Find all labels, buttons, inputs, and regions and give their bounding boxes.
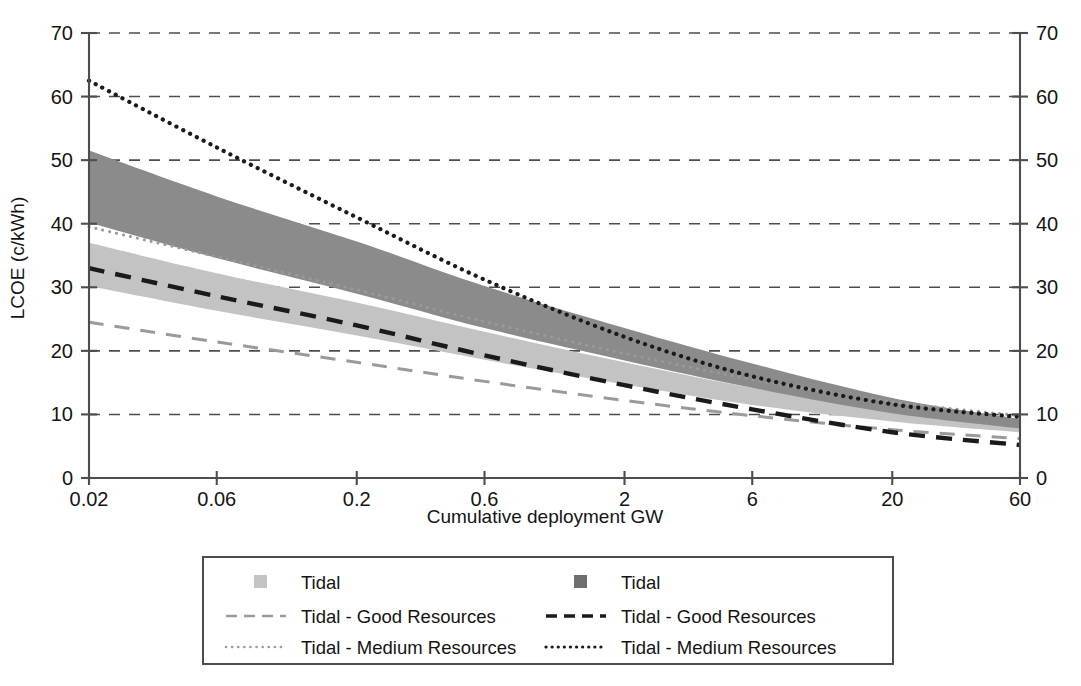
y-tick-label-right: 70 [1036,22,1058,44]
chart-legend: TidalTidal - Good ResourcesTidal - Mediu… [203,557,893,664]
chart-canvas: 0010102020303040405050606070700.020.060.… [0,0,1081,686]
x-tick-label: 0.02 [70,488,109,510]
x-tick-label: 20 [881,488,903,510]
y-tick-label-right: 0 [1036,467,1047,489]
legend-item-label: Tidal - Medium Resources [621,637,836,658]
x-tick-label: 6 [747,488,758,510]
x-tick-label: 60 [1009,488,1031,510]
y-tick-label-right: 40 [1036,213,1058,235]
chart-figure: 0010102020303040405050606070700.020.060.… [0,0,1081,686]
legend-item-label: Tidal - Medium Resources [301,637,516,658]
x-axis-title: Cumulative deployment GW [427,506,664,527]
y-tick-label-left: 10 [51,403,73,425]
legend-swatch-square-icon [254,575,267,588]
y-tick-label-left: 70 [51,22,73,44]
legend-item-label: Tidal - Good Resources [301,606,496,627]
y-tick-label-right: 30 [1036,276,1058,298]
y-tick-label-right: 50 [1036,149,1058,171]
y-tick-label-right: 10 [1036,403,1058,425]
y-tick-label-right: 20 [1036,340,1058,362]
legend-swatch-square-icon [574,575,587,588]
y-tick-label-right: 60 [1036,86,1058,108]
y-tick-label-left: 50 [51,149,73,171]
y-axis-title: LCOE (c/kWh) [7,197,28,319]
y-tick-label-left: 30 [51,276,73,298]
x-tick-label: 0.2 [343,488,371,510]
legend-item-label: Tidal [301,572,340,593]
y-tick-label-left: 60 [51,86,73,108]
legend-item-label: Tidal - Good Resources [621,606,816,627]
y-tick-label-left: 40 [51,213,73,235]
x-tick-label: 0.06 [197,488,236,510]
y-tick-label-left: 20 [51,340,73,362]
y-tick-label-left: 0 [62,467,73,489]
legend-item-label: Tidal [621,572,660,593]
